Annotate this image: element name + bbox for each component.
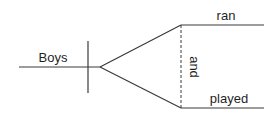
fork-branch-lower [100, 67, 181, 108]
fork-branch-upper [100, 25, 181, 67]
sentence-diagram: Boys ran played and [0, 0, 277, 119]
predicate-word-upper: ran [217, 8, 236, 23]
conjunction-word: and [187, 56, 202, 78]
subject-word: Boys [39, 50, 68, 65]
predicate-word-lower: played [210, 91, 248, 106]
